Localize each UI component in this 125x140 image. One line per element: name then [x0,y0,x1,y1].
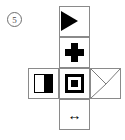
net-cell-upper-middle [59,37,90,68]
half-filled-rectangle-icon [29,69,58,98]
double-headed-horizontal-arrow-icon: ↔ [60,100,89,129]
concentric-squares-icon [60,69,89,98]
net-cell-top [59,6,90,37]
net-cell-bottom: ↔ [59,99,90,130]
net-cell-middle-right [90,68,121,99]
question-number-badge: 5 [7,12,22,27]
bold-plus-cross-icon [60,38,89,67]
black-right-triangle-icon [60,7,89,36]
net-cell-center [59,68,90,99]
envelope-diagonals-icon [91,69,120,98]
net-cell-middle-left [28,68,59,99]
cube-net-figure: ↔ [28,6,121,134]
